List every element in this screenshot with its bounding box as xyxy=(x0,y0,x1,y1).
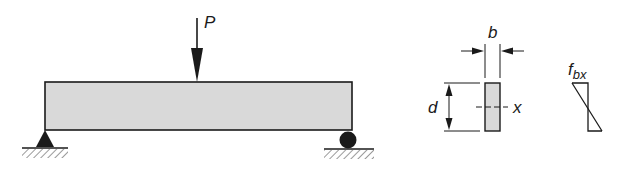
cross-section xyxy=(444,44,524,131)
width-dimension-arrows-icon xyxy=(461,48,524,55)
pin-support-icon xyxy=(22,130,68,158)
roller-support-icon xyxy=(324,132,374,160)
beam xyxy=(45,82,352,130)
load-label: P xyxy=(204,13,216,32)
beam-diagram: P b d x xyxy=(0,0,634,174)
axis-label: x xyxy=(512,98,522,117)
depth-label: d xyxy=(428,98,438,117)
stress-label: fbx xyxy=(568,60,587,82)
load-arrow-icon xyxy=(191,18,203,82)
bending-stress-diagram xyxy=(572,83,602,131)
width-label: b xyxy=(488,23,497,42)
depth-dimension-arrows-icon xyxy=(446,84,453,130)
